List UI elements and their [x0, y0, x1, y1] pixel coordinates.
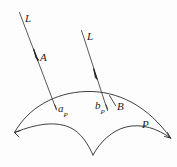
label-projection-b-base: b	[95, 99, 101, 111]
label-point-a: A	[40, 52, 47, 63]
left-ray-arrowhead	[34, 49, 38, 60]
left-ray	[20, 13, 57, 111]
label-projection-b-subscript: P	[101, 108, 105, 116]
label-projection-b: bP	[95, 100, 105, 114]
label-projection-a: aP	[58, 103, 68, 117]
point-b-connector	[110, 96, 116, 106]
surface-lower-right-arc	[93, 126, 171, 155]
label-projection-a-subscript: P	[64, 111, 68, 119]
figure-container: L A L aP bP B P	[0, 0, 177, 167]
surface-lower-left-arc	[15, 124, 94, 155]
right-ray-arrowhead	[94, 69, 98, 80]
label-line-right: L	[87, 31, 93, 42]
surface-top-arc	[15, 91, 171, 138]
point-a-marker	[37, 59, 39, 61]
label-surface-p: P	[142, 119, 149, 130]
label-line-left: L	[25, 13, 31, 24]
diagram-canvas	[0, 0, 177, 167]
label-projection-a-base: a	[58, 102, 64, 114]
label-point-b: B	[117, 101, 124, 112]
surface-right-tip-barb	[165, 133, 171, 139]
